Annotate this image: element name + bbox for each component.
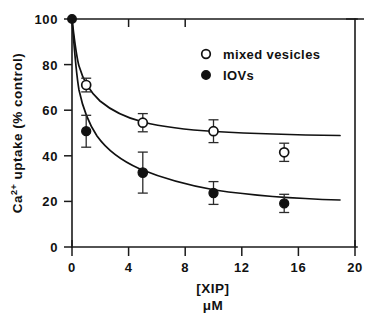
legend-label-iovs: IOVs — [223, 68, 254, 83]
marker-filled-circle-origin — [68, 15, 77, 24]
chart-svg: 0 20 40 60 80 100 0 — [0, 0, 378, 318]
datapoint-mixed-15 — [279, 143, 289, 161]
marker-open-circle — [209, 127, 218, 136]
marker-open-circle — [82, 81, 91, 90]
x-ticklabel-12: 12 — [234, 260, 250, 275]
marker-open-circle — [280, 148, 289, 157]
y-ticklabel-20: 20 — [42, 194, 58, 209]
marker-filled-circle — [280, 199, 289, 208]
marker-open-circle — [138, 118, 147, 127]
x-ticklabel-20: 20 — [347, 260, 363, 275]
legend: mixed vesicles IOVs — [202, 47, 321, 83]
x-ticklabel-4: 4 — [125, 260, 133, 275]
secondary-axis-ticks — [129, 19, 364, 27]
figure-container: 0 20 40 60 80 100 0 — [0, 0, 378, 318]
y-ticklabel-40: 40 — [42, 149, 58, 164]
y-ticklabel-100: 100 — [35, 12, 59, 27]
datapoint-iovs-1 — [81, 115, 91, 147]
x-ticklabel-0: 0 — [68, 260, 76, 275]
legend-entry-iovs: IOVs — [202, 68, 255, 83]
x-axis-title: [XIP] — [196, 281, 229, 296]
x-axis-ticks — [72, 240, 355, 256]
y-axis-ticks — [64, 19, 72, 247]
x-ticklabel-8: 8 — [181, 260, 189, 275]
series-iovs — [68, 15, 290, 213]
datapoint-mixed-10 — [209, 120, 219, 143]
legend-entry-mixed-vesicles: mixed vesicles — [202, 47, 321, 62]
y-axis-tick-labels: 0 20 40 60 80 100 — [35, 12, 59, 255]
y-ticklabel-60: 60 — [42, 103, 58, 118]
y-ticklabel-80: 80 — [42, 58, 58, 73]
marker-filled-circle — [82, 127, 91, 136]
y-axis-title-superscript: 2+ — [9, 184, 19, 195]
marker-filled-circle — [209, 189, 218, 198]
x-ticklabel-16: 16 — [291, 260, 307, 275]
datapoint-mixed-5 — [138, 114, 148, 132]
y-axis-title-prefix: Ca — [10, 195, 25, 213]
datapoint-iovs-5 — [138, 152, 148, 193]
legend-marker-filled-circle — [202, 71, 211, 80]
legend-label-mixed-vesicles: mixed vesicles — [223, 47, 320, 62]
y-ticklabel-0: 0 — [50, 240, 58, 255]
y-axis-title: Ca2+ uptake (% control) — [9, 53, 25, 214]
series-mixed-vesicles — [81, 78, 289, 161]
y-axis-title-group: Ca2+ uptake (% control) — [9, 53, 25, 214]
marker-filled-circle — [138, 168, 147, 177]
legend-marker-open-circle — [202, 50, 211, 59]
datapoint-iovs-10 — [209, 182, 219, 205]
y-axis-title-suffix: uptake (% control) — [10, 53, 25, 184]
x-axis-units: μM — [203, 298, 224, 313]
x-axis-tick-labels: 0 4 8 12 16 20 — [68, 260, 363, 275]
